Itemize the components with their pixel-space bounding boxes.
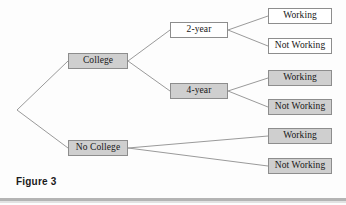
tree-edge-4yr-to-working [228,78,268,91]
tree-node-label: Not Working [275,102,326,112]
figure-caption: Figure 3 [16,176,57,187]
tree-node-four-year-not-working: Not Working [268,99,332,115]
tree-edge-root-to-college [17,61,68,110]
tree-node-label: Working [283,73,317,83]
figure-canvas: CollegeNo College2-year4-yearWorkingNot … [0,0,346,205]
tree-edge-college-to-4yr [128,61,170,91]
tree-node-label: Working [283,131,317,141]
tree-node-label: 4-year [187,86,212,96]
tree-node-no-college-not-working: Not Working [268,158,332,174]
tree-node-label: 2-year [187,25,212,35]
tree-node-college: College [68,53,128,69]
tree-node-label: Working [283,11,317,21]
tree-edge-2yr-to-not-working [228,30,268,46]
tree-node-label: College [83,56,113,66]
tree-edge-2yr-to-working [228,16,268,30]
tree-edge-root-to-no-college [17,110,68,148]
bottom-divider-soft [0,201,346,203]
tree-node-label: Not Working [275,41,326,51]
tree-node-two-year-not-working: Not Working [268,38,332,54]
tree-node-label: No College [76,143,121,153]
tree-node-no-college-working: Working [268,128,332,144]
tree-node-two-year: 2-year [170,22,228,38]
tree-node-four-year-working: Working [268,70,332,86]
tree-edge-nc-to-not-working [128,148,268,166]
tree-edge-nc-to-working [128,136,268,148]
tree-edge-college-to-2yr [128,30,170,61]
tree-edge-4yr-to-not-working [228,91,268,107]
tree-node-two-year-working: Working [268,8,332,24]
tree-node-four-year: 4-year [170,83,228,99]
tree-node-label: Not Working [275,161,326,171]
tree-node-no-college: No College [68,140,128,156]
